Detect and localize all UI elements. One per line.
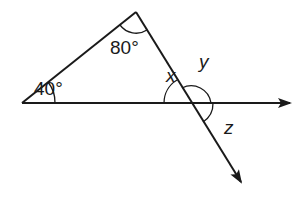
diagonal-ray: [136, 12, 241, 182]
triangle-angle-diagram: 40° 80° x y z: [0, 0, 304, 198]
angle-arc-z: [203, 103, 213, 122]
angle-label-y: y: [197, 51, 210, 72]
angle-label-40: 40°: [34, 78, 63, 99]
angle-label-80: 80°: [110, 37, 139, 58]
angle-arc-80: [120, 25, 147, 33]
angle-label-x: x: [165, 65, 177, 86]
angle-label-z: z: [223, 117, 234, 138]
